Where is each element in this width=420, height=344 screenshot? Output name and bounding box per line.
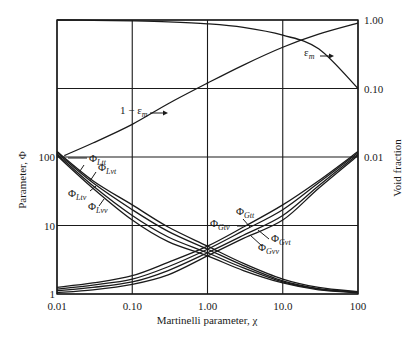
label-phi-lvt: ΦLvt [80,161,117,181]
x-axis-title: Martinelli parameter, χ [157,314,258,326]
y-tick-label: 10 [44,220,56,232]
svg-text:ΦGtt: ΦGtt [236,205,255,220]
svg-text:ΦLtv: ΦLtv [68,187,87,202]
y2-axis-title: Void fraction [391,139,403,197]
arrow-right-icon [163,111,168,116]
x-tick-labels: 0.010.101.0010.0100 [47,300,366,312]
arrow-right-icon [329,54,334,59]
x-tick-label: 100 [350,300,367,312]
svg-text:εm: εm [304,46,315,61]
x-tick-label: 0.01 [47,300,66,312]
curve-1-m [64,23,358,155]
y-tick-label: 100 [39,151,56,163]
y2-tick-label: 1.00 [364,14,384,26]
y-axis-title: Parameter, Φ [16,151,28,209]
svg-text:ΦLvv: ΦLvv [88,200,108,215]
y-tick-labels: 110100 [39,151,56,300]
x-tick-label: 1.00 [198,300,218,312]
y-tick-label: 1 [50,288,56,300]
label-one-minus-em: 1 − εm [120,104,168,119]
martinelli-chart: 0.010.101.0010.0100 110100 0.010.101.00 … [0,0,420,344]
svg-text:ΦGtv: ΦGtv [210,217,230,232]
label-phi-lvv: ΦLvv [88,199,108,215]
x-tick-label: 0.10 [123,300,143,312]
svg-text:ΦLvt: ΦLvt [98,161,117,176]
y2-tick-label: 0.01 [364,151,383,163]
y2-tick-label: 0.10 [364,83,384,95]
curve-labels: 1 − εm εm ΦLtt ΦLvt ΦLtv ΦLvv [68,46,334,256]
svg-text:1 − εm: 1 − εm [120,104,148,119]
svg-text:ΦGvt: ΦGvt [271,232,291,247]
y2-tick-labels: 0.010.101.00 [364,14,384,163]
x-tick-label: 10.0 [273,300,293,312]
label-phi-gtt: ΦGtt [236,205,255,227]
